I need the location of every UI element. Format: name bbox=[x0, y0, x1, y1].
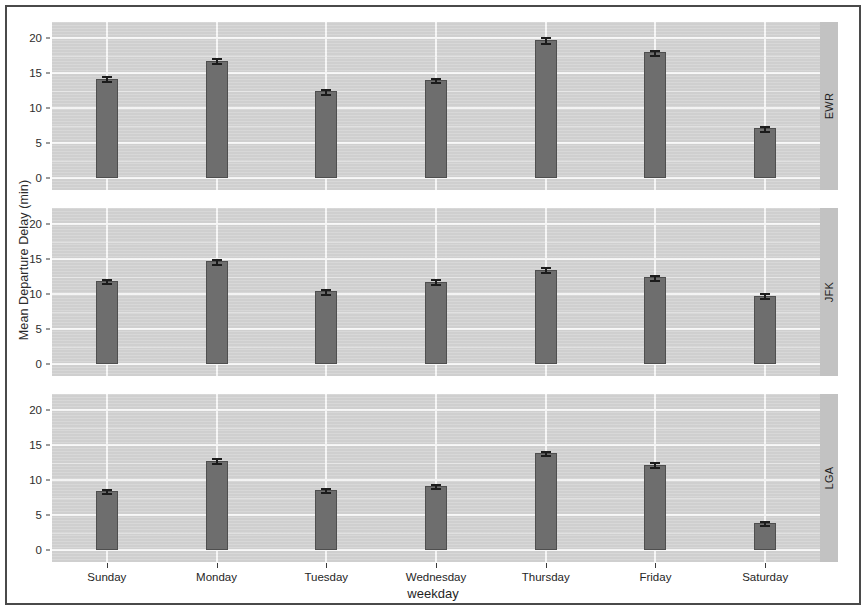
error-bar-cap-lower bbox=[431, 488, 441, 490]
error-bar-cap-lower bbox=[541, 272, 551, 274]
error-bar-cap-lower bbox=[650, 280, 660, 282]
facet-panel-ewr bbox=[52, 22, 820, 190]
y-axis-tick-mark bbox=[46, 224, 50, 225]
error-bar-cap-upper bbox=[541, 37, 551, 39]
bar bbox=[644, 465, 666, 550]
error-bar-cap-upper bbox=[650, 50, 660, 52]
error-bar-cap-upper bbox=[431, 484, 441, 486]
y-axis-tick-label: 10 bbox=[8, 102, 42, 114]
facet-strip-label: LGA bbox=[823, 467, 835, 490]
error-bar-cap-lower bbox=[541, 43, 551, 45]
error-bar-cap-lower bbox=[760, 298, 770, 300]
bar bbox=[96, 491, 118, 550]
x-axis-tick-mark bbox=[326, 563, 327, 568]
error-bar-cap-upper bbox=[212, 259, 222, 261]
y-axis-tick-label: 20 bbox=[8, 404, 42, 416]
x-axis-tick-label: Saturday bbox=[742, 571, 788, 583]
error-bar-cap-lower bbox=[212, 264, 222, 266]
bar bbox=[644, 52, 666, 178]
error-bar-cap-upper bbox=[212, 58, 222, 60]
error-bar-cap-upper bbox=[541, 267, 551, 269]
chart-figure: Mean Departure Delay (min) weekday 05101… bbox=[0, 0, 866, 610]
facet-strip-lga: LGA bbox=[820, 394, 838, 562]
facet-strip-ewr: EWR bbox=[820, 22, 838, 190]
error-bar-cap-lower bbox=[650, 55, 660, 57]
facet-strip-jfk: JFK bbox=[820, 208, 838, 376]
y-axis-tick-mark bbox=[46, 73, 50, 74]
error-bar-cap-upper bbox=[431, 279, 441, 281]
y-axis-tick-mark bbox=[46, 259, 50, 260]
error-bar-cap-upper bbox=[760, 126, 770, 128]
y-axis-tick-mark bbox=[46, 178, 50, 179]
y-axis-tick-mark bbox=[46, 364, 50, 365]
error-bar-cap-upper bbox=[102, 76, 112, 78]
bar bbox=[535, 453, 557, 550]
error-bar-cap-upper bbox=[321, 289, 331, 291]
error-bar-cap-upper bbox=[321, 89, 331, 91]
error-bar-cap-lower bbox=[760, 131, 770, 133]
bar bbox=[754, 296, 776, 364]
y-axis-tick-mark bbox=[46, 294, 50, 295]
x-axis-tick-mark bbox=[436, 563, 437, 568]
y-axis-tick-label: 5 bbox=[8, 137, 42, 149]
bar bbox=[206, 61, 228, 178]
error-bar-cap-lower bbox=[431, 284, 441, 286]
bar bbox=[535, 270, 557, 364]
x-axis-tick-label: Sunday bbox=[87, 571, 126, 583]
x-axis-tick-mark bbox=[107, 563, 108, 568]
y-axis-tick-label: 5 bbox=[8, 509, 42, 521]
bar bbox=[644, 277, 666, 364]
x-axis-tick-mark bbox=[765, 563, 766, 568]
y-axis-tick-label: 15 bbox=[8, 67, 42, 79]
error-bar-cap-lower bbox=[760, 525, 770, 527]
y-axis-tick-mark bbox=[46, 515, 50, 516]
error-bar-cap-upper bbox=[760, 293, 770, 295]
y-axis-tick-label: 0 bbox=[8, 172, 42, 184]
bar bbox=[96, 79, 118, 178]
error-bar-cap-upper bbox=[760, 521, 770, 523]
bar bbox=[206, 261, 228, 364]
facet-panel-jfk bbox=[52, 208, 820, 376]
x-axis-tick-mark bbox=[655, 563, 656, 568]
bar bbox=[206, 461, 228, 550]
x-axis-tick-label: Friday bbox=[639, 571, 671, 583]
error-bar-cap-lower bbox=[102, 493, 112, 495]
x-axis-tick-mark bbox=[217, 563, 218, 568]
error-bar-cap-lower bbox=[321, 94, 331, 96]
y-axis-tick-mark bbox=[46, 550, 50, 551]
y-axis-tick-mark bbox=[46, 410, 50, 411]
error-bar-cap-lower bbox=[212, 63, 222, 65]
error-bar-cap-upper bbox=[102, 279, 112, 281]
y-axis-tick-mark bbox=[46, 38, 50, 39]
y-axis-tick-mark bbox=[46, 329, 50, 330]
facet-panel-lga bbox=[52, 394, 820, 562]
bar bbox=[96, 281, 118, 364]
bar bbox=[315, 490, 337, 550]
error-bar-cap-upper bbox=[650, 462, 660, 464]
error-bar-cap-lower bbox=[102, 283, 112, 285]
y-axis-tick-mark bbox=[46, 143, 50, 144]
error-bar-cap-lower bbox=[212, 463, 222, 465]
error-bar-cap-lower bbox=[102, 81, 112, 83]
error-bar-cap-lower bbox=[650, 467, 660, 469]
x-axis-tick-label: Tuesday bbox=[304, 571, 348, 583]
error-bar-cap-upper bbox=[212, 458, 222, 460]
error-bar-cap-lower bbox=[541, 455, 551, 457]
x-axis-tick-label: Monday bbox=[196, 571, 237, 583]
bar bbox=[754, 128, 776, 178]
error-bar-cap-upper bbox=[431, 78, 441, 80]
y-axis-tick-mark bbox=[46, 480, 50, 481]
y-axis-tick-label: 15 bbox=[8, 253, 42, 265]
error-bar-cap-upper bbox=[321, 488, 331, 490]
y-axis-tick-label: 10 bbox=[8, 288, 42, 300]
bar bbox=[315, 91, 337, 178]
error-bar-cap-lower bbox=[321, 294, 331, 296]
y-axis-tick-label: 10 bbox=[8, 474, 42, 486]
y-axis-tick-label: 20 bbox=[8, 32, 42, 44]
error-bar-cap-lower bbox=[431, 82, 441, 84]
error-bar-cap-lower bbox=[321, 492, 331, 494]
bar bbox=[425, 80, 447, 178]
y-axis-tick-label: 20 bbox=[8, 218, 42, 230]
y-axis-tick-label: 5 bbox=[8, 323, 42, 335]
error-bar-cap-upper bbox=[541, 451, 551, 453]
